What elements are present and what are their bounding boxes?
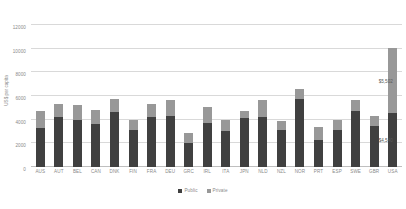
bar-group[interactable] xyxy=(36,25,45,167)
bar-segment-private[interactable] xyxy=(36,111,45,128)
bar-group[interactable] xyxy=(110,25,119,167)
chart-container: US$ per capita 0200040006000800010000120… xyxy=(0,0,406,209)
x-axis-tick: BEL xyxy=(67,169,87,174)
x-axis-tick: FIN xyxy=(123,169,143,174)
bar-group[interactable] xyxy=(277,25,286,167)
bar-segment-public[interactable] xyxy=(314,140,323,167)
bar-group[interactable] xyxy=(388,25,397,167)
bar-group[interactable] xyxy=(295,25,304,167)
x-axis-tick: IRL xyxy=(197,169,217,174)
bar-group[interactable] xyxy=(166,25,175,167)
bar-segment-private[interactable] xyxy=(91,110,100,125)
gridline xyxy=(31,142,402,143)
legend-swatch-icon xyxy=(178,189,182,193)
bar-segment-private[interactable] xyxy=(166,100,175,116)
bar-group[interactable] xyxy=(221,25,230,167)
bar-group[interactable] xyxy=(54,25,63,167)
x-axis-tick: USA xyxy=(383,169,403,174)
bar-segment-public[interactable] xyxy=(203,123,212,167)
bar-segment-private[interactable] xyxy=(333,120,342,130)
bar-segment-private[interactable] xyxy=(314,127,323,141)
bar-group[interactable] xyxy=(73,25,82,167)
bar-group[interactable] xyxy=(184,25,193,167)
y-axis-tick-labels: 020004000600080001000012000 xyxy=(0,25,29,167)
bar-group[interactable] xyxy=(147,25,156,167)
bar-group[interactable] xyxy=(203,25,212,167)
x-axis-tick: DNK xyxy=(104,169,124,174)
gridline xyxy=(31,95,402,96)
data-label: $4,540 xyxy=(379,138,393,143)
x-axis-tick: ITA xyxy=(216,169,236,174)
bar-segment-public[interactable] xyxy=(129,130,138,167)
data-label: $5,502 xyxy=(379,79,393,84)
x-axis-tick: GRC xyxy=(179,169,199,174)
plot-area: $5,502$4,540 xyxy=(31,25,402,167)
bar-group[interactable] xyxy=(129,25,138,167)
bar-segment-public[interactable] xyxy=(221,131,230,167)
x-axis-tick: NLD xyxy=(253,169,273,174)
x-axis-tick: DEU xyxy=(160,169,180,174)
bar-segment-private[interactable] xyxy=(258,100,267,118)
bar-segment-public[interactable] xyxy=(184,143,193,167)
bar-segment-private[interactable] xyxy=(295,89,304,99)
bar-segment-public[interactable] xyxy=(147,117,156,167)
bar-segment-public[interactable] xyxy=(351,111,360,167)
bar-segment-private[interactable] xyxy=(240,111,249,118)
bar-segment-public[interactable] xyxy=(277,130,286,167)
gridline xyxy=(31,119,402,120)
x-axis-tick: ESP xyxy=(327,169,347,174)
bar-segment-private[interactable] xyxy=(203,107,212,122)
bar-segment-public[interactable] xyxy=(166,116,175,167)
bar-group[interactable] xyxy=(91,25,100,167)
bar-segment-public[interactable] xyxy=(73,120,82,167)
legend-label: Public xyxy=(184,188,197,193)
bar-segment-private[interactable] xyxy=(370,116,379,125)
bar-segment-private[interactable] xyxy=(351,100,360,111)
bar-segment-private[interactable] xyxy=(147,104,156,118)
bar-segment-private[interactable] xyxy=(221,120,230,131)
bar-segment-private[interactable] xyxy=(110,99,119,112)
bar-group[interactable] xyxy=(240,25,249,167)
x-axis-tick: GBR xyxy=(364,169,384,174)
gridline xyxy=(31,71,402,72)
gridline xyxy=(31,24,402,25)
bar-segment-private[interactable] xyxy=(277,121,286,129)
bar-segment-private[interactable] xyxy=(184,133,193,144)
legend-label: Private xyxy=(213,188,228,193)
bar-segment-private[interactable] xyxy=(54,104,63,118)
gridline xyxy=(31,166,402,167)
x-axis-tick: AUS xyxy=(30,169,50,174)
bar-segment-private[interactable] xyxy=(73,105,82,120)
x-axis-tick: PRT xyxy=(309,169,329,174)
legend-item[interactable]: Public xyxy=(178,188,197,193)
bar-group[interactable] xyxy=(314,25,323,167)
bar-segment-public[interactable] xyxy=(91,124,100,167)
bar-segment-public[interactable] xyxy=(110,112,119,167)
bar-segment-public[interactable] xyxy=(370,126,379,167)
x-axis-tick-labels: AUSAUTBELCANDNKFINFRADEUGRCIRLITAJPNNLDN… xyxy=(31,169,402,179)
bar-group[interactable] xyxy=(351,25,360,167)
x-axis-tick: FRA xyxy=(142,169,162,174)
x-axis-tick: AUT xyxy=(49,169,69,174)
bar-segment-public[interactable] xyxy=(54,117,63,167)
gridline xyxy=(31,48,402,49)
bar-segment-public[interactable] xyxy=(333,130,342,167)
x-axis-tick: JPN xyxy=(234,169,254,174)
bar-group[interactable] xyxy=(333,25,342,167)
legend-item[interactable]: Private xyxy=(207,188,228,193)
bar-group[interactable] xyxy=(258,25,267,167)
chart-legend: PublicPrivate xyxy=(0,188,406,193)
bar-segment-public[interactable] xyxy=(36,128,45,167)
x-axis-tick: NOR xyxy=(290,169,310,174)
x-axis-tick: NZL xyxy=(271,169,291,174)
bar-segment-public[interactable] xyxy=(240,118,249,167)
bar-segment-public[interactable] xyxy=(258,117,267,167)
bar-group[interactable] xyxy=(370,25,379,167)
x-axis-tick: SWE xyxy=(346,169,366,174)
x-axis-tick: CAN xyxy=(86,169,106,174)
legend-swatch-icon xyxy=(207,189,211,193)
bar-segment-private[interactable] xyxy=(129,120,138,131)
bar-segment-public[interactable] xyxy=(295,99,304,167)
